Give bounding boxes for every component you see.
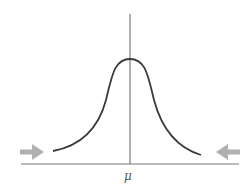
left-arrow-icon: [20, 144, 44, 160]
mean-label: μ: [124, 169, 132, 183]
bell-curve: [53, 59, 201, 155]
right-arrow-icon: [216, 144, 240, 160]
bell-curve-diagram: [0, 0, 251, 193]
